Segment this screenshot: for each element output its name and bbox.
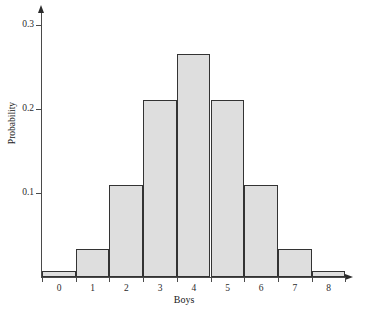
x-axis-tick bbox=[244, 277, 245, 282]
x-axis-title: Boys bbox=[0, 294, 368, 305]
x-axis-tick-label: 2 bbox=[109, 283, 143, 294]
y-axis-tick bbox=[36, 109, 42, 110]
x-axis-tick bbox=[109, 277, 110, 282]
y-axis-tick-label: 0.1 bbox=[4, 188, 34, 198]
histogram-bar bbox=[244, 185, 278, 277]
probability-histogram-figure: 0.10.20.3 012345678 Boys Probability bbox=[0, 0, 368, 309]
x-axis-tick-label: 1 bbox=[76, 283, 110, 294]
y-axis-line bbox=[41, 12, 42, 278]
axis-arrow-up-icon bbox=[38, 5, 44, 13]
histogram-bar bbox=[42, 271, 76, 277]
x-axis-tick bbox=[312, 277, 313, 282]
x-axis-tick-label: 0 bbox=[42, 283, 76, 294]
histogram-bar bbox=[109, 185, 143, 277]
y-axis-tick-label: 0.3 bbox=[4, 20, 34, 30]
x-axis-line bbox=[42, 277, 345, 278]
y-axis-tick bbox=[36, 193, 42, 194]
x-axis-tick bbox=[345, 277, 346, 282]
histogram-bar bbox=[211, 100, 245, 277]
x-axis-tick bbox=[143, 277, 144, 282]
x-axis-tick bbox=[278, 277, 279, 282]
histogram-bar bbox=[312, 271, 346, 277]
x-axis-tick-label: 5 bbox=[211, 283, 245, 294]
x-axis-tick-label: 7 bbox=[278, 283, 312, 294]
histogram-bar bbox=[143, 100, 177, 277]
x-axis-tick bbox=[76, 277, 77, 282]
y-axis-title: Probability bbox=[7, 63, 17, 183]
x-axis-tick bbox=[42, 277, 43, 282]
histogram-bar bbox=[76, 249, 110, 277]
y-axis-tick bbox=[36, 25, 42, 26]
histogram-bar bbox=[177, 54, 211, 277]
x-axis-tick-label: 4 bbox=[177, 283, 211, 294]
x-axis-tick bbox=[177, 277, 178, 282]
x-axis-tick-label: 8 bbox=[312, 283, 346, 294]
x-axis-tick-label: 6 bbox=[244, 283, 278, 294]
histogram-bar bbox=[278, 249, 312, 277]
x-axis-tick-label: 3 bbox=[143, 283, 177, 294]
x-axis-tick bbox=[211, 277, 212, 282]
